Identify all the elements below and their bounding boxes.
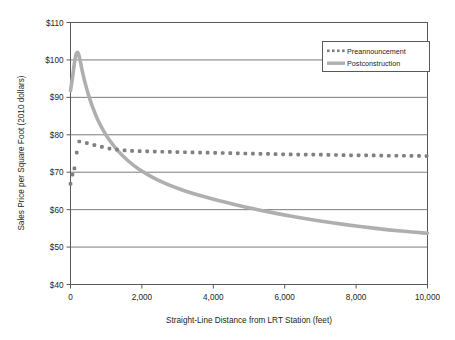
data-point-preannouncement (327, 153, 331, 157)
data-point-preannouncement (153, 150, 157, 154)
data-point-preannouncement (342, 153, 346, 157)
data-point-preannouncement (259, 152, 263, 156)
data-point-preannouncement (221, 151, 225, 155)
data-point-preannouncement (108, 147, 112, 151)
data-point-preannouncement (417, 154, 421, 158)
data-point-preannouncement (266, 152, 270, 156)
data-point-preannouncement (69, 182, 73, 186)
data-point-preannouncement (123, 149, 127, 153)
data-point-preannouncement (402, 154, 406, 158)
data-point-preannouncement (130, 149, 134, 153)
y-tick-label: $110 (46, 19, 64, 28)
data-point-preannouncement (198, 151, 202, 155)
y-axis-title: Sales Price per Square Foot (2010 dollar… (17, 75, 26, 230)
data-point-preannouncement (251, 152, 255, 156)
x-tick-label: 10,000 (415, 293, 440, 302)
y-axis-ticks: $40$50$60$70$80$90$100$110 (45, 19, 70, 290)
data-point-preannouncement (73, 167, 77, 171)
data-point-preannouncement (191, 151, 195, 155)
data-point-preannouncement (236, 151, 240, 155)
data-point-preannouncement (289, 153, 293, 157)
data-point-preannouncement (75, 151, 79, 155)
data-point-preannouncement (311, 153, 315, 157)
data-point-preannouncement (183, 150, 187, 154)
data-point-preannouncement (372, 154, 376, 158)
data-point-preannouncement (425, 154, 429, 158)
data-point-preannouncement (244, 152, 248, 156)
data-point-preannouncement (395, 154, 399, 158)
y-tick-label: $80 (50, 131, 64, 140)
data-point-preannouncement (364, 154, 368, 158)
data-point-preannouncement (319, 153, 323, 157)
data-point-preannouncement (379, 154, 383, 158)
legend-label-preannouncement: Preannouncement (347, 47, 406, 56)
data-point-preannouncement (138, 149, 142, 153)
data-point-preannouncement (410, 154, 414, 158)
chart-legend: Preannouncement Postconstruction (323, 42, 430, 72)
data-point-preannouncement (71, 173, 75, 177)
chart-figure: $40$50$60$70$80$90$100$110 02,0004,0006,… (0, 0, 455, 340)
data-point-preannouncement (206, 151, 210, 155)
data-point-preannouncement (357, 154, 361, 158)
y-tick-label: $70 (50, 168, 64, 177)
x-tick-label: 6,000 (274, 293, 295, 302)
data-point-preannouncement (281, 152, 285, 156)
x-axis-ticks: 02,0004,0006,0008,00010,000 (68, 285, 440, 302)
x-tick-label: 4,000 (203, 293, 224, 302)
y-tick-label: $40 (50, 281, 64, 290)
y-tick-label: $60 (50, 206, 64, 215)
data-point-preannouncement (168, 150, 172, 154)
line-chart: $40$50$60$70$80$90$100$110 02,0004,0006,… (0, 0, 455, 340)
data-point-preannouncement (160, 150, 164, 154)
data-point-preannouncement (100, 145, 104, 149)
y-tick-label: $100 (45, 56, 64, 65)
data-point-preannouncement (334, 153, 338, 157)
data-point-preannouncement (77, 140, 81, 144)
data-point-preannouncement (145, 150, 149, 154)
data-point-preannouncement (93, 143, 97, 147)
data-point-preannouncement (213, 151, 217, 155)
x-tick-label: 8,000 (346, 293, 367, 302)
data-point-preannouncement (228, 151, 232, 155)
x-tick-label: 2,000 (132, 293, 153, 302)
data-point-preannouncement (387, 154, 391, 158)
data-point-preannouncement (176, 150, 180, 154)
data-point-preannouncement (304, 153, 308, 157)
x-axis-title: Straight-Line Distance from LRT Station … (166, 316, 332, 325)
data-point-preannouncement (296, 153, 300, 157)
y-tick-label: $50 (50, 243, 64, 252)
data-point-preannouncement (274, 152, 278, 156)
legend-label-postconstruction: Postconstruction (347, 59, 400, 68)
data-point-preannouncement (349, 153, 353, 157)
y-tick-label: $90 (50, 93, 64, 102)
x-tick-label: 0 (68, 293, 73, 302)
data-point-preannouncement (115, 148, 119, 152)
data-point-preannouncement (85, 141, 89, 145)
